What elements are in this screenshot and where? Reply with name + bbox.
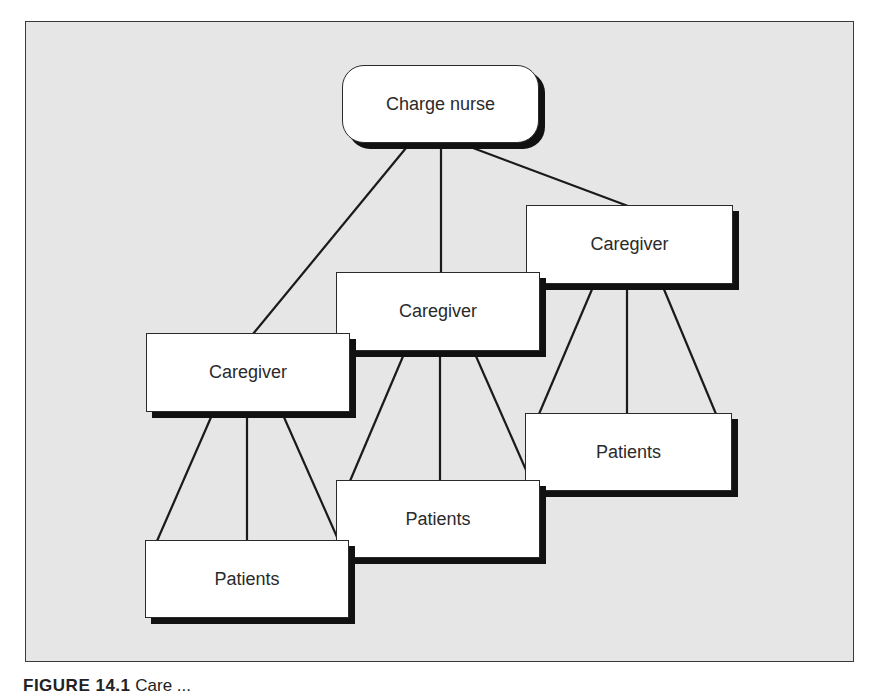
figure-caption-text: Care ... [135,676,191,695]
figure-caption: FIGURE 14.1 Care ... [23,676,191,695]
node-label: Caregiver [209,362,287,383]
node-label: Charge nurse [386,94,495,115]
node-label: Patients [596,442,661,463]
node-patients-left: Patients [145,540,349,618]
node-charge-nurse: Charge nurse [342,65,539,143]
node-caregiver-middle: Caregiver [336,272,540,351]
node-label: Patients [214,569,279,590]
node-patients-middle: Patients [336,480,540,558]
node-label: Caregiver [590,234,668,255]
node-label: Patients [405,509,470,530]
node-caregiver-right: Caregiver [526,205,733,284]
node-patients-right: Patients [525,413,732,491]
edge-charge-to-right-caregiver [473,148,628,206]
node-label: Caregiver [399,301,477,322]
node-caregiver-left: Caregiver [146,333,350,412]
figure-label: FIGURE 14.1 [23,676,131,695]
